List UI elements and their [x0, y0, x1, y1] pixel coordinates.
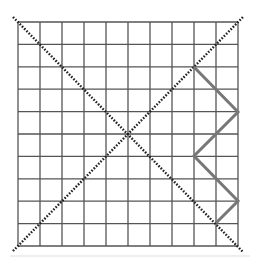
- grid-diagram: [0, 0, 255, 260]
